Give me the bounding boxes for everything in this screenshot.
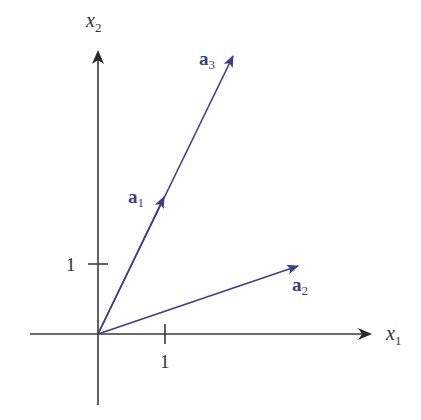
x-tick-label: 1 [160,351,170,372]
x-axis-label: x1 [385,322,401,348]
y-tick-label: 1 [66,254,76,275]
vector-a2-label: a2 [292,274,308,298]
vector-a3-label: a3 [199,48,215,72]
vector-a1-label: a1 [128,186,144,210]
y-axis-label: x2 [85,9,101,35]
vector-diagram: x2 x1 1 1 a3 a1 a2 [0,0,421,420]
vector-a2 [98,266,298,334]
vector-a1 [98,197,164,334]
